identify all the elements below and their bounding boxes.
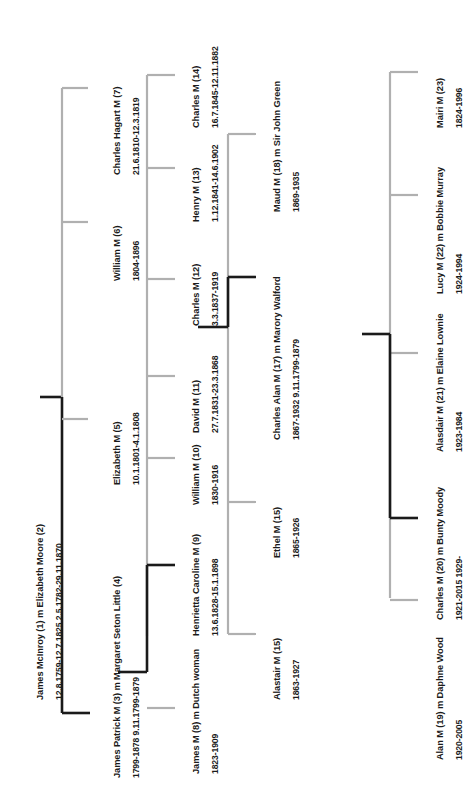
person-name: Alasdair M (21) m Elaine Lownie [436,314,445,452]
person-name: William M (10) [192,444,201,505]
person-node-p15a[interactable]: Alastair M (15) 1863-1927 [273,638,301,700]
person-name: Lucy M (22) m Bobbie Murray [436,167,445,294]
person-dates: 3.3.1837-1919 [211,264,220,326]
person-node-p5[interactable]: Elizabeth M (5) 10.1.1801-4.1.1808 [113,412,141,485]
family-tree-diagram: James McInroy (1) m Elizabeth Moore (2) … [0,0,465,785]
person-name: Charles Alan M (17) m Marory Walford [273,276,282,440]
person-dates: 1.12.1841-14.6.1902 [211,145,220,222]
person-dates: 1824-1996 [455,78,464,128]
person-dates: 10.1.1801-4.1.1808 [132,412,141,485]
person-name: David M (11) [192,356,201,433]
person-dates: 1823-1909 [211,649,220,774]
person-node-p18[interactable]: Maud M (18) m Sir John Green 1869-1935 [273,81,301,212]
connector-lines [0,0,465,785]
person-node-p1[interactable]: James McInroy (1) m Elizabeth Moore (2) … [36,524,64,700]
person-node-p3[interactable]: James Patrick M (3) m Margaret Seton Lit… [113,576,141,778]
person-node-p19[interactable]: Alan M (19) m Daphne Wood 1920-2005 [436,637,464,760]
person-name: Charles M (14) [192,46,201,128]
person-dates: 1867-1932 9.11.1799-1879 [292,276,301,440]
person-dates: 12.8.1759-12.7.1825 2.5.1782-29.11.1870 [55,524,64,700]
person-name: Mairi M (23) [436,78,445,128]
person-node-p22[interactable]: Lucy M (22) m Bobbie Murray 1924-1994 [436,167,464,294]
person-name: Alan M (19) m Daphne Wood [436,637,445,760]
person-dates: 1923-1984 [455,314,464,452]
person-dates: 1804-1896 [132,226,141,281]
person-name: James Patrick M (3) m Margaret Seton Lit… [113,576,122,778]
person-node-p7[interactable]: Charles Hagart M (7) 21.6.1810-12.3.1819 [113,87,141,175]
person-node-p10[interactable]: William M (10) 1830-1916 [192,444,220,505]
person-dates: 1924-1994 [455,167,464,294]
person-dates: 13.6.1828-15.1.1898 [211,534,220,636]
person-name: Henry M (13) [192,145,201,222]
person-node-p6[interactable]: William M (6) 1804-1896 [113,226,141,281]
person-dates: 1920-2005 [455,637,464,760]
person-name: James M (8) m Dutch woman [192,649,201,774]
person-node-p12[interactable]: Charles M (12) 3.3.1837-1919 [192,264,220,326]
person-node-p11[interactable]: David M (11) 27.7.1831-23.3.1868 [192,356,220,433]
person-node-p8[interactable]: James M (8) m Dutch woman 1823-1909 [192,649,220,774]
person-name: Maud M (18) m Sir John Green [273,81,282,212]
person-dates: 16.7.1845-12.11.1882 [211,46,220,128]
person-node-p15b[interactable]: Ethel M (15) 1865-1926 [273,507,301,558]
person-name: Alastair M (15) [273,638,282,700]
person-name: William M (6) [113,226,122,281]
person-name: Ethel M (15) [273,507,282,558]
person-dates: 1830-1916 [211,444,220,505]
person-name: Henrietta Caroline M (9) [192,534,201,636]
person-dates: 1863-1927 [292,638,301,700]
person-name: Elizabeth M (5) [113,412,122,485]
person-node-p14[interactable]: Charles M (14) 16.7.1845-12.11.1882 [192,46,220,128]
person-dates: 1921-2015 1929- [455,487,464,620]
person-dates: 1799-1878 9.11.1799-1879 [132,576,141,778]
person-node-p17[interactable]: Charles Alan M (17) m Marory Walford 186… [273,276,301,440]
person-node-p23[interactable]: Mairi M (23) 1824-1996 [436,78,464,128]
person-node-p9[interactable]: Henrietta Caroline M (9) 13.6.1828-15.1.… [192,534,220,636]
person-name: Charles M (20) m Bunty Moody [436,487,445,620]
person-dates: 1865-1926 [292,507,301,558]
person-node-p21[interactable]: Alasdair M (21) m Elaine Lownie 1923-198… [436,314,464,452]
person-name: James McInroy (1) m Elizabeth Moore (2) [36,524,45,700]
person-name: Charles M (12) [192,264,201,326]
person-name: Charles Hagart M (7) [113,87,122,175]
person-dates: 21.6.1810-12.3.1819 [132,87,141,175]
person-node-p13[interactable]: Henry M (13) 1.12.1841-14.6.1902 [192,145,220,222]
person-dates: 1869-1935 [292,81,301,212]
person-dates: 27.7.1831-23.3.1868 [211,356,220,433]
person-node-p20[interactable]: Charles M (20) m Bunty Moody 1921-2015 1… [436,487,464,620]
